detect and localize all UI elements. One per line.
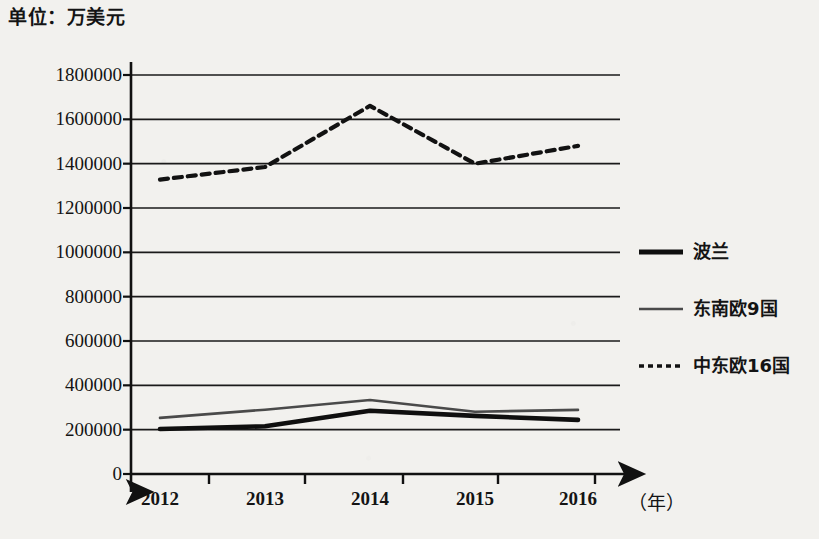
legend-swatch-solid-thin — [638, 302, 684, 316]
legend-swatch-dashed — [638, 359, 684, 373]
legend-label-0: 波兰 — [693, 243, 729, 261]
legend-swatch-solid-thick — [638, 245, 684, 259]
legend-label-2: 中东欧16国 — [693, 357, 790, 375]
legend-item-1[interactable]: 东南欧9国 — [638, 300, 778, 318]
legend-item-2[interactable]: 中东欧16国 — [638, 357, 790, 375]
legend-label-1: 东南欧9国 — [693, 300, 778, 318]
series-line-2 — [160, 106, 578, 180]
legend-item-0[interactable]: 波兰 — [638, 243, 729, 261]
chart-figure: 单位：万美元 180000016000001400000120000010000… — [0, 0, 819, 539]
x-axis-tick-marks — [209, 474, 595, 484]
data-series-lines — [160, 106, 578, 429]
chart-plot-area — [0, 0, 819, 539]
